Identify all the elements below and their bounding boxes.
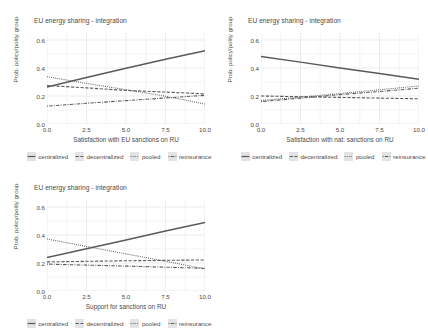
- x-tick-label: 7.5: [375, 126, 384, 133]
- y-tick-label: 0.2: [36, 93, 45, 100]
- y-tick-label: 0.6: [36, 37, 45, 44]
- legend-label: pooled: [356, 153, 375, 160]
- y-axis-title: Prob. policy/polity group: [12, 174, 19, 260]
- legend-item-centralized[interactable]: centralized: [27, 152, 68, 161]
- legend-label: pooled: [142, 153, 161, 160]
- plot-svg: [261, 33, 419, 124]
- legend-label: centralized: [38, 320, 68, 327]
- y-tick-label: 0.4: [36, 65, 45, 72]
- legend-item-reinsurance[interactable]: reinsurance: [382, 152, 426, 161]
- y-tick-label: 0.4: [36, 232, 45, 239]
- legend-item-pooled[interactable]: pooled: [130, 319, 160, 328]
- legend-label: reinsurance: [179, 320, 211, 327]
- y-tick-label: 0.2: [36, 260, 45, 267]
- legend-item-decentralized[interactable]: decentralized: [75, 152, 123, 161]
- plot-svg: [47, 33, 205, 124]
- y-axis-title: Prob. policy/polity group: [226, 7, 233, 93]
- chart-panel-3: EU energy sharing - integration Prob. po…: [0, 167, 214, 333]
- y-axis-title: Prob. policy/polity group: [12, 7, 19, 93]
- x-tick-label: 2.5: [82, 293, 91, 300]
- x-tick-label: 10.0: [413, 126, 425, 133]
- legend-label: centralized: [252, 153, 282, 160]
- x-axis-title: Support for sanctions on RU: [47, 303, 205, 310]
- legend-label: pooled: [142, 320, 161, 327]
- legend-key-reinsurance-icon: [168, 152, 177, 161]
- x-tick-label: 0.0: [257, 126, 266, 133]
- x-tick-label: 2.5: [296, 126, 305, 133]
- legend-label: reinsurance: [179, 153, 211, 160]
- legend-item-decentralized[interactable]: decentralized: [289, 152, 337, 161]
- x-axis-ticks: 0.02.55.07.510.0: [261, 126, 419, 136]
- y-tick-label: 0.6: [36, 204, 45, 211]
- x-tick-label: 10.0: [199, 293, 211, 300]
- legend-key-reinsurance-icon: [168, 319, 177, 328]
- x-tick-label: 5.0: [122, 293, 131, 300]
- plot-area: [261, 33, 419, 124]
- legend-item-pooled[interactable]: pooled: [130, 152, 160, 161]
- y-tick-label: 0.6: [250, 37, 259, 44]
- legend-item-decentralized[interactable]: decentralized: [75, 319, 123, 328]
- legend-key-pooled-icon: [344, 152, 353, 161]
- x-tick-label: 5.0: [336, 126, 345, 133]
- panel-title: EU energy sharing - integration: [34, 17, 127, 24]
- x-axis-title: Satisfaction with nat. sanctions on RU: [261, 136, 419, 143]
- plot-svg: [47, 200, 205, 291]
- legend-key-decentralized-icon: [75, 319, 84, 328]
- panel-title: EU energy sharing - integration: [34, 184, 127, 191]
- legend: centralizeddecentralizedpooledreinsuranc…: [24, 150, 214, 162]
- legend-item-centralized[interactable]: centralized: [27, 319, 68, 328]
- legend-key-pooled-icon: [130, 319, 139, 328]
- figure-panel-grid: EU energy sharing - integration Prob. po…: [0, 0, 428, 333]
- legend-label: decentralized: [87, 320, 124, 327]
- legend-key-pooled-icon: [130, 152, 139, 161]
- chart-panel-1: EU energy sharing - integration Prob. po…: [0, 0, 214, 166]
- legend-key-centralized-icon: [27, 152, 36, 161]
- y-axis-ticks: 0.00.20.40.6: [25, 33, 45, 124]
- legend-key-decentralized-icon: [75, 152, 84, 161]
- legend-item-reinsurance[interactable]: reinsurance: [168, 319, 212, 328]
- y-tick-label: 0.4: [250, 65, 259, 72]
- y-tick-label: 0.2: [250, 93, 259, 100]
- panel-title: EU energy sharing - integration: [248, 17, 341, 24]
- x-axis-title: Satisfaction with EU sanctions on RU: [47, 136, 205, 143]
- legend-key-centralized-icon: [241, 152, 250, 161]
- x-axis-ticks: 0.02.55.07.510.0: [47, 126, 205, 136]
- x-tick-label: 7.5: [161, 126, 170, 133]
- legend-label: centralized: [38, 153, 68, 160]
- plot-area: [47, 33, 205, 124]
- legend-key-decentralized-icon: [289, 152, 298, 161]
- y-axis-ticks: 0.00.20.40.6: [25, 200, 45, 291]
- legend-key-reinsurance-icon: [382, 152, 391, 161]
- y-axis-ticks: 0.00.20.40.6: [239, 33, 259, 124]
- legend-label: decentralized: [87, 153, 124, 160]
- legend-item-reinsurance[interactable]: reinsurance: [168, 152, 212, 161]
- plot-area: [47, 200, 205, 291]
- legend-key-centralized-icon: [27, 319, 36, 328]
- legend-item-centralized[interactable]: centralized: [241, 152, 282, 161]
- x-tick-label: 2.5: [82, 126, 91, 133]
- x-tick-label: 10.0: [199, 126, 211, 133]
- chart-panel-2: EU energy sharing - integration Prob. po…: [214, 0, 428, 166]
- legend: centralizeddecentralizedpooledreinsuranc…: [24, 317, 214, 329]
- x-tick-label: 5.0: [122, 126, 131, 133]
- x-axis-ticks: 0.02.55.07.510.0: [47, 293, 205, 303]
- legend-item-pooled[interactable]: pooled: [344, 152, 374, 161]
- legend: centralizeddecentralizedpooledreinsuranc…: [238, 150, 428, 162]
- legend-label: reinsurance: [393, 153, 425, 160]
- x-tick-label: 0.0: [43, 126, 52, 133]
- x-tick-label: 0.0: [43, 293, 52, 300]
- x-tick-label: 7.5: [161, 293, 170, 300]
- legend-label: decentralized: [301, 153, 338, 160]
